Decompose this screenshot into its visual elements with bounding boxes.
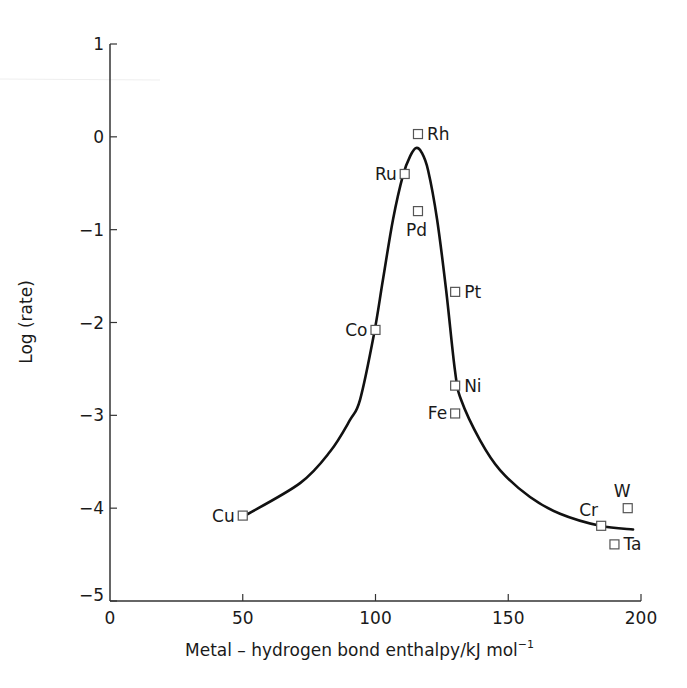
- point-label: Co: [345, 320, 367, 340]
- data-point-cu: Cu: [212, 506, 247, 526]
- point-label: Ta: [622, 534, 641, 554]
- y-axis-title: Log (rate): [16, 280, 36, 364]
- y-tick-label: −2: [79, 313, 104, 333]
- x-tick-label: 0: [105, 608, 116, 628]
- y-tick-label: −5: [79, 585, 104, 605]
- square-marker-icon: [623, 504, 632, 513]
- square-marker-icon: [371, 325, 380, 334]
- square-marker-icon: [610, 540, 619, 549]
- data-points: RhRuPdPtCoNiFeCuCrWTa: [212, 124, 641, 554]
- square-marker-icon: [597, 521, 606, 530]
- y-tick-label: −4: [79, 498, 104, 518]
- point-label: W: [614, 481, 631, 501]
- point-label: Ru: [375, 164, 397, 184]
- x-tick-label: 100: [359, 608, 391, 628]
- point-label: Cu: [212, 506, 235, 526]
- square-marker-icon: [413, 130, 422, 139]
- volcano-plot: 10−1−2−3−4−5050100150200 RhRuPdPtCoNiFeC…: [0, 0, 687, 688]
- square-marker-icon: [451, 287, 460, 296]
- point-label: Rh: [427, 124, 450, 144]
- fit-curve: [245, 148, 633, 530]
- point-label: Fe: [428, 403, 447, 423]
- x-tick-label: 150: [492, 608, 524, 628]
- point-label: Pt: [464, 282, 481, 302]
- data-point-rh: Rh: [413, 124, 449, 144]
- square-marker-icon: [238, 511, 247, 520]
- square-marker-icon: [400, 169, 409, 178]
- faint-artifact-line: [0, 79, 160, 80]
- fit-curve-path: [245, 148, 633, 530]
- data-point-fe: Fe: [428, 403, 460, 423]
- data-point-w: W: [614, 481, 633, 512]
- data-point-ta: Ta: [610, 534, 642, 554]
- square-marker-icon: [451, 381, 460, 390]
- data-point-cr: Cr: [579, 500, 606, 531]
- point-label: Pd: [406, 220, 427, 240]
- data-point-pt: Pt: [451, 282, 482, 302]
- square-marker-icon: [451, 409, 460, 418]
- y-tick-label: 0: [93, 127, 104, 147]
- axes: 10−1−2−3−4−5050100150200: [79, 34, 657, 628]
- data-point-pd: Pd: [406, 207, 427, 241]
- point-label: Cr: [579, 500, 598, 520]
- y-tick-label: 1: [93, 34, 104, 54]
- x-tick-label: 50: [232, 608, 254, 628]
- point-label: Ni: [464, 376, 481, 396]
- x-axis-title: Metal – hydrogen bond enthalpy/kJ mol−1: [185, 638, 534, 660]
- y-tick-label: −3: [79, 405, 104, 425]
- x-tick-label: 200: [625, 608, 657, 628]
- y-tick-label: −1: [79, 220, 104, 240]
- square-marker-icon: [413, 207, 422, 216]
- x-axis-title-text: Metal – hydrogen bond enthalpy/kJ mol: [185, 640, 518, 660]
- x-axis-title-superscript: −1: [518, 638, 534, 651]
- data-point-ru: Ru: [375, 164, 409, 184]
